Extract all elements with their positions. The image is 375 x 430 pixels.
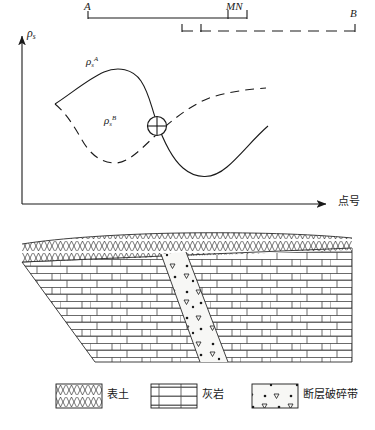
- label-electrode-B: B: [350, 8, 357, 19]
- label-electrode-MN: MN: [226, 1, 243, 12]
- curve-label-A-sup: A: [94, 55, 98, 62]
- y-axis-label-sub: s: [33, 32, 36, 41]
- legend-label-topsoil: 表土: [107, 389, 129, 400]
- y-axis-label: ρs: [27, 27, 36, 41]
- curve-label-B-sup: B: [112, 114, 116, 121]
- intersection-point: [148, 117, 167, 136]
- figure-root: A MN B ρs 点号 ρsA ρsB 表土 灰岩 断层破碎带: [0, 0, 375, 430]
- curve-label-rho-s-A: ρsA: [86, 56, 98, 69]
- legend-label-limestone: 灰岩: [202, 389, 224, 400]
- electrode-layout: [88, 10, 355, 32]
- curve-label-rho-s-B: ρsB: [104, 115, 116, 128]
- legend-label-fault-zone: 断层破碎带: [303, 389, 358, 400]
- chart-axes: [22, 36, 326, 204]
- figure-svg: [0, 0, 375, 430]
- label-electrode-A: A: [84, 1, 91, 12]
- x-axis-label: 点号: [338, 196, 360, 207]
- legend-swatches: [56, 384, 298, 408]
- geologic-cross-section: [18, 228, 358, 370]
